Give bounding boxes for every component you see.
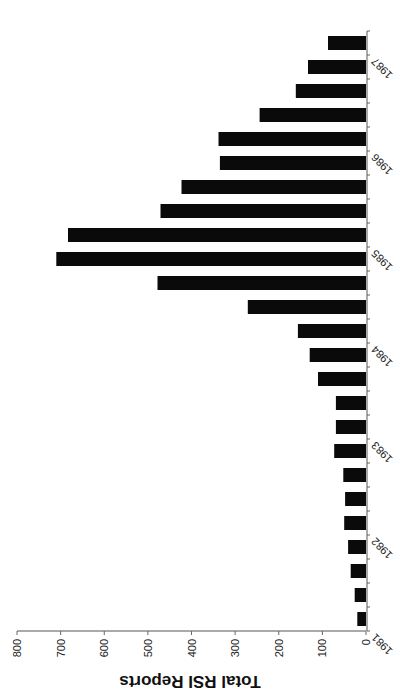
bar [355,588,366,602]
value-tick-label: 500 [142,639,154,657]
bar [343,468,366,482]
bar [296,84,366,98]
year-label: 1981 [369,632,395,658]
value-tick-label: 700 [55,639,67,657]
rsi-reports-bar-chart: 0100200300400500600700800 19811982198319… [0,0,417,691]
bar [56,252,366,266]
bar [318,372,366,386]
value-axis: 0100200300400500600700800 [11,631,372,657]
value-tick-label: 300 [229,639,241,657]
bar [68,228,366,242]
bar [308,60,366,74]
bar [161,204,367,218]
category-axis: 1981198219831984198519861987 [367,31,395,657]
value-tick-label: 100 [316,639,328,657]
bar [336,396,366,410]
year-label: 1983 [369,440,395,466]
bar [248,300,366,314]
bar [334,444,366,458]
bar [357,612,366,626]
value-tick-label: 400 [186,639,198,657]
bar [348,540,366,554]
bar [336,420,366,434]
bar [310,348,366,362]
year-label: 1985 [369,248,395,274]
year-label: 1982 [369,536,395,562]
bar [328,36,366,50]
bars-group [56,36,366,626]
bar [298,324,366,338]
value-tick-label: 800 [11,639,23,657]
year-label: 1984 [369,344,395,370]
bar [344,516,366,530]
value-axis-title: Total RSI Reports [119,672,260,691]
year-label: 1987 [369,56,395,82]
value-tick-label: 600 [98,639,110,657]
bar [220,156,366,170]
bar [351,564,366,578]
bar [260,108,366,122]
bar [345,492,366,506]
year-label: 1986 [369,152,395,178]
bar [158,276,367,290]
bar [182,180,367,194]
value-tick-label: 200 [273,639,285,657]
bar [219,132,367,146]
